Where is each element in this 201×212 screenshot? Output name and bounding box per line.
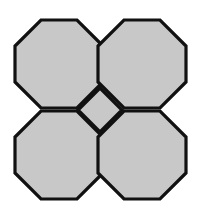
- geometric-figure: [0, 0, 201, 212]
- octagon-top-left: [15, 20, 103, 108]
- octagon-bottom-left: [15, 111, 103, 199]
- octagon-top-right: [98, 20, 186, 108]
- octagon-bottom-right: [98, 111, 186, 199]
